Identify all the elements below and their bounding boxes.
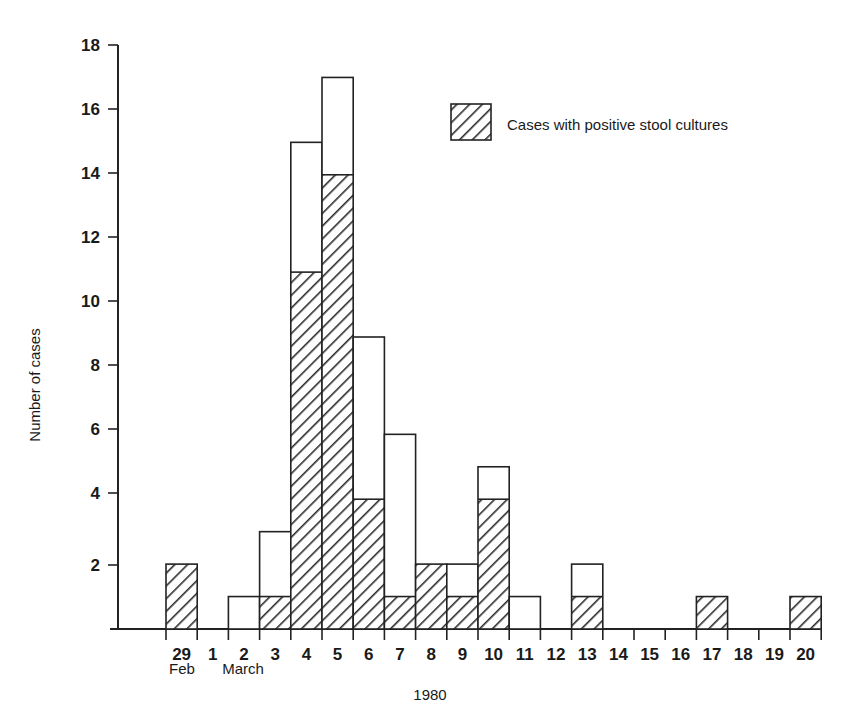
bar-group (447, 564, 478, 629)
x-tick-label: 17 (703, 645, 722, 664)
month-label-march: March (222, 660, 264, 677)
bar-positive-cultures (696, 597, 727, 629)
x-tick-label: 12 (547, 645, 566, 664)
y-tick-label: 12 (81, 228, 100, 247)
y-tick-label: 18 (81, 36, 100, 55)
x-tick-label: 18 (734, 645, 753, 664)
bar-total (228, 597, 259, 629)
x-tick-label: 9 (458, 645, 467, 664)
x-tick-label: 16 (671, 645, 690, 664)
x-tick-label: 14 (609, 645, 628, 664)
bar-positive-cultures (291, 272, 322, 629)
bar-group (353, 337, 384, 629)
y-axis-ticks (108, 45, 118, 565)
bar-group (228, 597, 259, 629)
y-tick-label: 6 (91, 420, 100, 439)
bar-group (416, 564, 447, 629)
x-tick-label: 19 (765, 645, 784, 664)
bar-positive-cultures (790, 597, 821, 629)
bar-positive-cultures (166, 564, 197, 629)
x-axis-tick-labels: 291234567891011121314151617181920 (172, 645, 815, 664)
y-tick-label: 4 (91, 484, 101, 503)
bar-group (260, 532, 291, 629)
x-tick-label: 10 (484, 645, 503, 664)
x-tick-label: 8 (426, 645, 435, 664)
x-tick-label: 6 (364, 645, 373, 664)
bar-total (509, 597, 540, 629)
y-axis-tick-labels: 18 16 14 12 10 8 6 4 2 (81, 36, 100, 575)
bar-group (322, 77, 353, 629)
bar-group (478, 467, 509, 629)
bar-positive-cultures (478, 499, 509, 629)
legend-swatch-hatched-icon (451, 104, 491, 140)
x-axis-ticks (166, 629, 821, 640)
bar-positive-cultures (260, 597, 291, 629)
month-label-feb: Feb (169, 660, 195, 677)
bar-group (790, 597, 821, 629)
bar-group (291, 142, 322, 629)
x-tick-label: 11 (516, 645, 534, 664)
x-axis-title: 1980 (413, 686, 446, 703)
y-tick-label: 14 (81, 164, 100, 183)
y-tick-label: 10 (81, 292, 100, 311)
legend: Cases with positive stool cultures (451, 104, 728, 140)
y-tick-label: 2 (91, 556, 100, 575)
x-tick-label: 7 (395, 645, 404, 664)
bar-positive-cultures (322, 175, 353, 629)
bar-positive-cultures (572, 597, 603, 629)
bars-layer (166, 77, 821, 629)
x-tick-label: 3 (270, 645, 279, 664)
bar-positive-cultures (447, 597, 478, 629)
x-tick-label: 15 (640, 645, 659, 664)
histogram-chart: Number of cases 18 16 14 12 10 8 6 4 2 (0, 0, 858, 720)
x-tick-label: 4 (302, 645, 312, 664)
x-tick-label: 20 (796, 645, 815, 664)
bar-positive-cultures (353, 499, 384, 629)
bar-group (696, 597, 727, 629)
legend-label: Cases with positive stool cultures (507, 116, 728, 133)
epidemic-curve-figure: Number of cases 18 16 14 12 10 8 6 4 2 (0, 0, 858, 720)
bar-group (166, 564, 197, 629)
y-tick-label: 8 (91, 356, 100, 375)
bar-group (572, 564, 603, 629)
bar-group (509, 597, 540, 629)
x-tick-label: 1 (208, 645, 217, 664)
y-tick-label: 16 (81, 100, 100, 119)
bar-group (384, 434, 415, 629)
y-axis-title: Number of cases (26, 328, 43, 441)
x-tick-label: 13 (578, 645, 597, 664)
bar-positive-cultures (384, 597, 415, 629)
x-tick-label: 5 (333, 645, 342, 664)
bar-positive-cultures (416, 564, 447, 629)
